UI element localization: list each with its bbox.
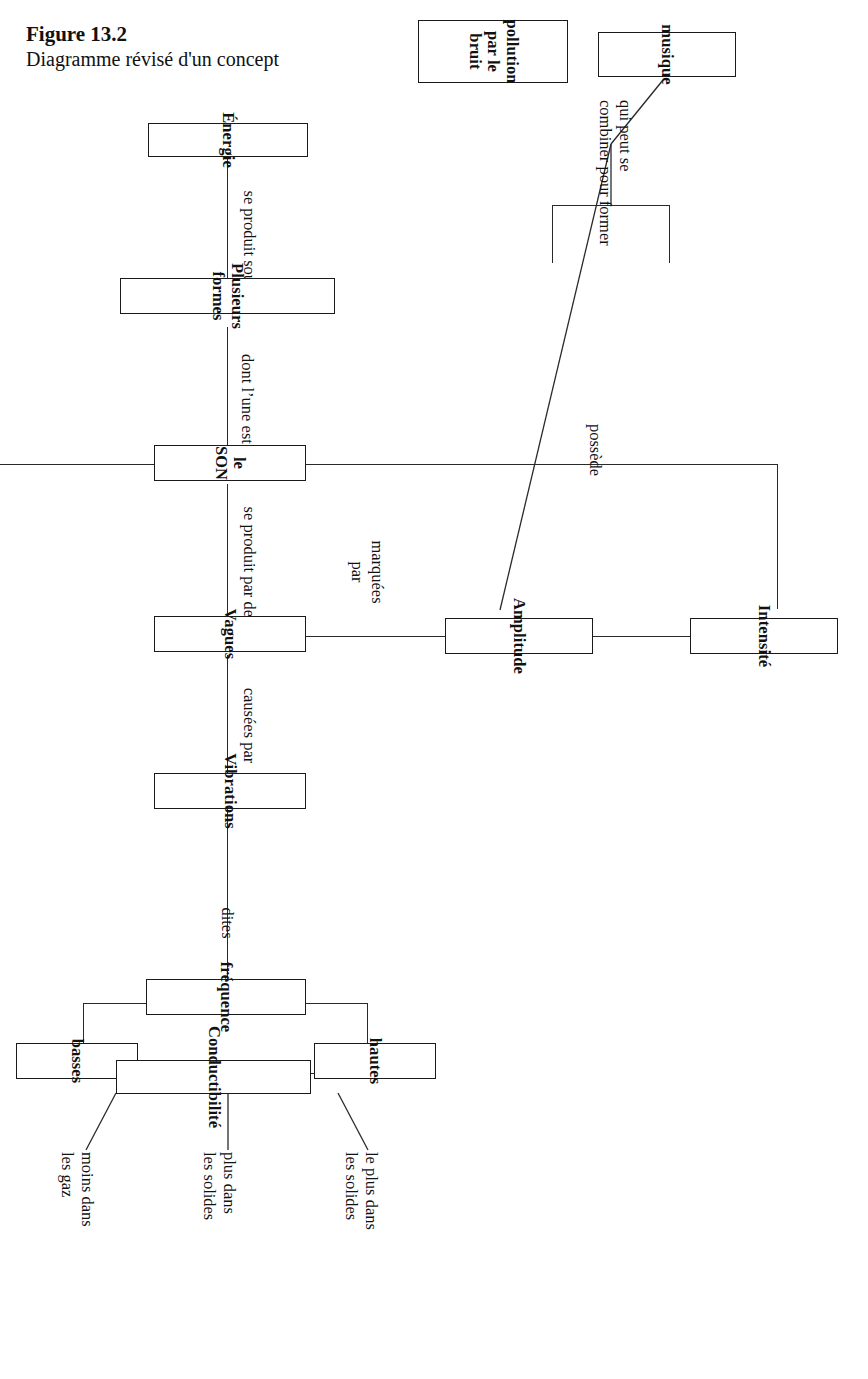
node-plusieurs-formes[interactable]: Plusieurs formes xyxy=(120,278,335,314)
edge-label-text: dont l’une est xyxy=(238,354,257,444)
node-energie-label: Énergie xyxy=(219,112,237,168)
node-intensite-label: Intensité xyxy=(755,605,773,667)
node-intensite[interactable]: Intensité xyxy=(690,618,838,654)
node-frequence[interactable]: fréquence xyxy=(146,979,306,1015)
node-le-son-label: le SON xyxy=(212,446,249,480)
node-plusieurs-formes-label: Plusieurs formes xyxy=(209,263,246,329)
annotation-le-plus-dans-les-solides: le plus dans les solides xyxy=(342,1152,400,1317)
node-conductibilite[interactable]: Conductibilité xyxy=(116,1060,311,1094)
node-vagues[interactable]: Vagues xyxy=(154,616,306,652)
edge-label-possede-top: possède xyxy=(585,400,624,500)
annotation-text: plus dans les solides xyxy=(200,1152,238,1220)
edge-label-dites: dites xyxy=(217,888,256,958)
edge-label-text: dites xyxy=(218,907,237,938)
figure-caption: Figure 13.2 Diagramme révisé d'un concep… xyxy=(26,22,356,72)
node-vagues-label: Vagues xyxy=(221,609,239,659)
figure-number: Figure 13.2 xyxy=(26,22,356,47)
edge-label-dont-lune-est: dont l’une est xyxy=(237,340,276,458)
node-conductibilite-label: Conductibilité xyxy=(204,1026,222,1128)
node-basses-label: basses xyxy=(68,1039,86,1084)
edge-label-text: marquées par xyxy=(348,540,386,603)
node-vibrations-label: Vibrations xyxy=(221,753,239,829)
node-pollution-label: pollution par le bruit xyxy=(465,19,520,83)
node-musique[interactable]: musique xyxy=(598,32,736,77)
node-amplitude-label: Amplitude xyxy=(510,598,528,674)
edge-label-text: qui peut se combiner pour former xyxy=(596,100,634,246)
node-hautes[interactable]: hautes xyxy=(314,1043,436,1079)
edge-label-text: causées par xyxy=(240,688,259,764)
node-hautes-label: hautes xyxy=(366,1038,384,1084)
annotation-text: le plus dans les solides xyxy=(342,1152,380,1230)
node-energie[interactable]: Énergie xyxy=(148,123,308,157)
edge-label-possede-bottom: possède xyxy=(0,400,6,500)
edge-label-marquees-par: marquées par xyxy=(348,512,406,632)
annotation-plus-dans-les-solides: plus dans les solides xyxy=(200,1152,258,1317)
annotation-text: moins dans les gaz xyxy=(58,1152,96,1227)
figure-page: Figure 13.2 Diagramme révisé d'un concep… xyxy=(0,0,868,1379)
diagonal-connectors xyxy=(0,0,868,1379)
edge-label-causees-par: causées par xyxy=(239,668,278,783)
concept-map: Énergie Plusieurs formes le SON Vagues V… xyxy=(0,0,868,1379)
node-pollution-par-le-bruit[interactable]: pollution par le bruit xyxy=(418,20,568,83)
edge-label-qui-peut-se-combiner: qui peut se combiner pour former xyxy=(596,100,654,285)
annotation-moins-dans-les-gaz: moins dans les gaz xyxy=(58,1152,116,1317)
node-amplitude[interactable]: Amplitude xyxy=(445,618,593,654)
node-frequence-label: fréquence xyxy=(217,962,235,1033)
node-vibrations[interactable]: Vibrations xyxy=(154,773,306,809)
node-le-son[interactable]: le SON xyxy=(154,445,306,481)
node-musique-label: musique xyxy=(658,24,676,84)
figure-title: Diagramme révisé d'un concept xyxy=(26,47,356,72)
edge-label-text: possède xyxy=(586,424,605,476)
edge-label-text: se produit par des xyxy=(240,507,259,624)
